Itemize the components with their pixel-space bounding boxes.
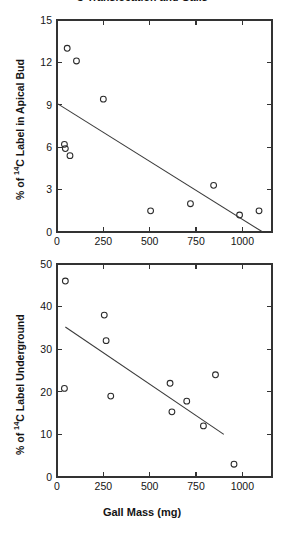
data-point (148, 208, 154, 214)
y-axis-tick-label: 0 (46, 471, 52, 483)
y-axis-tick-label: 9 (46, 99, 52, 111)
data-point (103, 338, 109, 344)
x-axis-tick-label: 750 (187, 480, 205, 492)
scatter-plot-underground: 0102030405002505007501000 (0, 245, 284, 533)
y-axis-tick-label: 20 (40, 386, 52, 398)
data-point (231, 461, 237, 467)
y-axis-label-pre: % of (14, 175, 26, 200)
isotope-superscript: 14 (12, 167, 21, 175)
chart-panel-apical-bud: 0369121502505007501000 % of 14C Label in… (0, 0, 284, 248)
y-axis-label-post: C Label Underground (14, 314, 26, 421)
y-axis-tick-label: 40 (40, 300, 52, 312)
data-point (108, 393, 114, 399)
data-point (67, 153, 73, 159)
x-axis-tick-label: 1000 (231, 480, 255, 492)
data-point (213, 372, 219, 378)
data-point (100, 96, 106, 102)
data-point (184, 398, 190, 404)
data-point (201, 423, 207, 429)
figure-container: C Translocation and Galls 03691215025050… (0, 0, 284, 533)
regression-line (65, 327, 223, 434)
isotope-superscript: 14 (12, 422, 21, 430)
x-axis-label-gall-mass: Gall Mass (mg) (0, 506, 284, 518)
data-point (211, 182, 217, 188)
chart-panel-underground: 0102030405002505007501000 (0, 245, 284, 533)
data-point (62, 385, 68, 391)
data-point (256, 208, 262, 214)
y-axis-tick-label: 6 (46, 141, 52, 153)
data-point (64, 45, 70, 51)
data-point (169, 409, 175, 415)
y-axis-tick-label: 3 (46, 183, 52, 195)
data-point (62, 278, 68, 284)
y-axis-tick-label: 12 (40, 56, 52, 68)
y-axis-tick-label: 15 (40, 14, 52, 26)
data-point (74, 58, 80, 64)
y-axis-label-pre: % of (14, 430, 26, 455)
data-point (167, 380, 173, 386)
y-axis-label-underground: % of 14C Label Underground (12, 314, 26, 455)
scatter-plot-apical-bud: 0369121502505007501000 (0, 0, 284, 248)
regression-line (57, 103, 263, 232)
plot-frame (57, 20, 272, 232)
plot-frame (57, 264, 272, 477)
y-axis-label-apical-bud: % of 14C Label in Apical Bud (12, 59, 26, 200)
y-axis-tick-label: 0 (46, 226, 52, 238)
y-axis-label-post: C Label in Apical Bud (14, 59, 26, 167)
y-axis-tick-label: 30 (40, 343, 52, 355)
x-axis-tick-label: 0 (54, 480, 60, 492)
data-point (188, 201, 194, 207)
x-axis-tick-label: 500 (141, 480, 159, 492)
x-axis-tick-label: 250 (95, 480, 113, 492)
data-point (101, 312, 107, 318)
y-axis-tick-label: 10 (40, 428, 52, 440)
y-axis-tick-label: 50 (40, 258, 52, 270)
